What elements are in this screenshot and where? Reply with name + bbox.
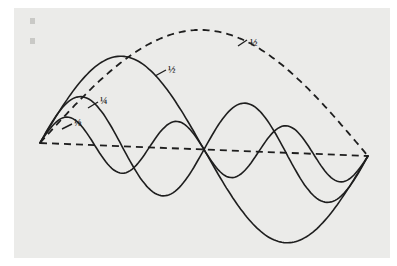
label-leader-line [238,40,247,46]
curve-label-quarter: ¼ [100,95,108,106]
label-leader-line [62,124,72,129]
standing-wave-diagram: ½½¼⅛ [0,0,397,266]
scan-smudge [30,18,35,24]
curve-label-half: ½ [168,64,176,75]
curve-label-fundamental: ½ [250,37,258,48]
curve-labels: ½½¼⅛ [62,37,258,129]
scan-smudge [30,38,35,44]
label-leader-line [155,70,166,76]
eighth-wavelength-curve [40,117,368,182]
page: ½½¼⅛ [0,0,397,266]
curve-label-eighth: ⅛ [74,117,82,128]
